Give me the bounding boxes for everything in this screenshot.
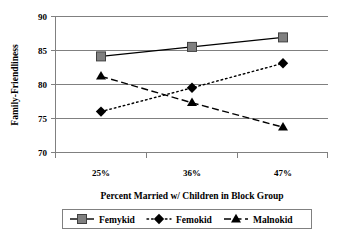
chart-legend: Femykid Femokid Malnokid [63,210,312,229]
femykid-point-0 [97,52,106,61]
y-tick-label-90: 90 [38,12,48,22]
chart-figure: 90 85 80 75 70 25% 36% 47% Percent Marri… [0,0,344,237]
x-tick-label-0: 25% [92,168,110,178]
x-tick-label-2: 47% [274,168,292,178]
femykid-point-1 [188,42,197,51]
x-axis-title: Percent Married w/ Children in Block Gro… [100,191,283,201]
legend-label-femokid: Femokid [176,215,213,225]
legend-label-femykid: Femykid [99,215,136,225]
chart-canvas: 90 85 80 75 70 25% 36% 47% Percent Marri… [0,0,344,237]
y-tick-label-75: 75 [38,114,48,124]
square-marker-icon [78,215,87,224]
y-tick-label-80: 80 [38,80,48,90]
y-axis-title: Family-Friendliness [10,44,20,126]
y-tick-label-85: 85 [38,46,48,56]
x-tick-label-1: 36% [183,168,201,178]
y-tick-label-70: 70 [38,148,48,158]
femykid-point-2 [279,33,288,42]
legend-label-malnokid: Malnokid [253,215,293,225]
legend-item-femykid[interactable]: Femykid [70,215,136,225]
